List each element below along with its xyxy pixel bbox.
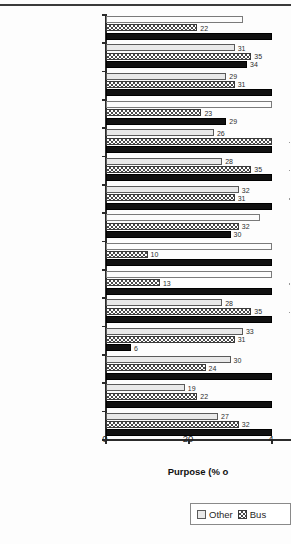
bar-holiday[interactable]: [106, 33, 272, 40]
bar-group: 33316: [105, 326, 291, 354]
bar-value-label: 30: [234, 357, 242, 364]
bar-bus[interactable]: [106, 336, 235, 343]
bar-other[interactable]: [106, 129, 214, 136]
bar-value-label: 24: [209, 365, 217, 372]
bar-value-label: 31: [238, 81, 246, 88]
bar-value-label: 28: [225, 300, 233, 307]
bar-other[interactable]: [106, 73, 226, 80]
legend-swatch-other: [197, 510, 206, 519]
bar-bus[interactable]: [106, 194, 235, 201]
bar-value-label: 31: [238, 45, 246, 52]
bar-holiday[interactable]: [106, 373, 272, 380]
bar-bus[interactable]: [106, 138, 272, 145]
bar-other[interactable]: [106, 214, 260, 221]
bar-holiday[interactable]: [106, 316, 272, 323]
bar-other[interactable]: [106, 101, 272, 108]
bar-other[interactable]: [106, 384, 185, 391]
bar-other[interactable]: [106, 413, 218, 420]
bar-group: 2732: [105, 411, 291, 439]
bar-other[interactable]: [106, 243, 272, 250]
legend-label-other: Other: [209, 509, 233, 520]
bar-value-label: 35: [254, 53, 262, 60]
bar-group: 2329: [105, 99, 291, 127]
bar-group: 10: [105, 241, 291, 269]
edge-marker: [289, 283, 291, 285]
x-axis-tick-label: 4: [268, 433, 273, 444]
edge-marker: [289, 312, 291, 314]
bar-other[interactable]: [106, 186, 239, 193]
legend-label-bus: Bus: [250, 509, 266, 520]
bar-bus[interactable]: [106, 308, 251, 315]
edge-marker: [289, 142, 291, 144]
bar-group: 2835: [105, 156, 291, 184]
bar-holiday[interactable]: [106, 231, 231, 238]
bar-holiday[interactable]: [106, 89, 272, 96]
bar-holiday[interactable]: [106, 203, 272, 210]
bar-bus[interactable]: [106, 166, 251, 173]
x-axis-line: [105, 439, 291, 441]
bar-bus[interactable]: [106, 421, 239, 428]
bar-other[interactable]: [106, 356, 231, 363]
bar-value-label: 27: [221, 413, 229, 420]
legend-item-bus[interactable]: Bus: [238, 509, 266, 520]
x-axis-title: Purpose (% o: [105, 466, 291, 477]
bar-value-label: 29: [229, 73, 237, 80]
bar-bus[interactable]: [106, 251, 148, 258]
x-axis-tick-label: 20: [183, 433, 194, 444]
bar-other[interactable]: [106, 158, 222, 165]
bar-holiday[interactable]: [106, 146, 272, 153]
bar-holiday[interactable]: [106, 259, 272, 266]
bar-holiday[interactable]: [106, 118, 226, 125]
chart-figure: 2231353429312329262835323132301013283533…: [0, 0, 291, 544]
bar-group: 1922: [105, 382, 291, 410]
bar-group: 26: [105, 127, 291, 155]
bar-value-label: 35: [254, 166, 262, 173]
bar-bus[interactable]: [106, 81, 235, 88]
bar-value-label: 22: [200, 393, 208, 400]
bar-value-label: 31: [238, 195, 246, 202]
bar-bus[interactable]: [106, 223, 239, 230]
legend-item-other[interactable]: Other: [197, 509, 233, 520]
bar-value-label: 32: [242, 187, 250, 194]
edge-marker: [289, 198, 291, 200]
bar-bus[interactable]: [106, 53, 251, 60]
bar-group: 13: [105, 269, 291, 297]
bar-value-label: 34: [250, 61, 258, 68]
bar-value-label: 28: [225, 158, 233, 165]
bar-group: 22: [105, 14, 291, 42]
bar-value-label: 22: [200, 25, 208, 32]
bar-holiday[interactable]: [106, 174, 272, 181]
bar-other[interactable]: [106, 328, 243, 335]
bar-bus[interactable]: [106, 393, 197, 400]
bar-holiday[interactable]: [106, 344, 131, 351]
bar-holiday[interactable]: [106, 61, 247, 68]
bar-other[interactable]: [106, 299, 222, 306]
bar-value-label: 13: [163, 280, 171, 287]
bar-group: 3230: [105, 212, 291, 240]
bar-other[interactable]: [106, 16, 243, 23]
bar-value-label: 35: [254, 308, 262, 315]
bar-value-label: 32: [242, 421, 250, 428]
bar-group: 313534: [105, 42, 291, 70]
bar-other[interactable]: [106, 44, 235, 51]
bar-holiday[interactable]: [106, 401, 272, 408]
bar-other[interactable]: [106, 271, 272, 278]
bar-value-label: 30: [234, 231, 242, 238]
bar-value-label: 10: [151, 251, 159, 258]
bar-bus[interactable]: [106, 24, 197, 31]
legend-swatch-bus: [238, 510, 247, 519]
bar-group: 3231: [105, 184, 291, 212]
bar-group: 2835: [105, 297, 291, 325]
bar-bus[interactable]: [106, 364, 206, 371]
bar-value-label: 19: [188, 385, 196, 392]
bar-group: 2931: [105, 71, 291, 99]
bar-value-label: 31: [238, 336, 246, 343]
bar-value-label: 23: [204, 110, 212, 117]
bar-bus[interactable]: [106, 109, 201, 116]
plot-area: 2231353429312329262835323132301013283533…: [105, 14, 291, 439]
chart-legend: Other Bus: [190, 503, 291, 525]
bar-holiday[interactable]: [106, 288, 272, 295]
bar-bus[interactable]: [106, 279, 160, 286]
bar-value-label: 29: [229, 118, 237, 125]
bar-value-label: 33: [246, 328, 254, 335]
